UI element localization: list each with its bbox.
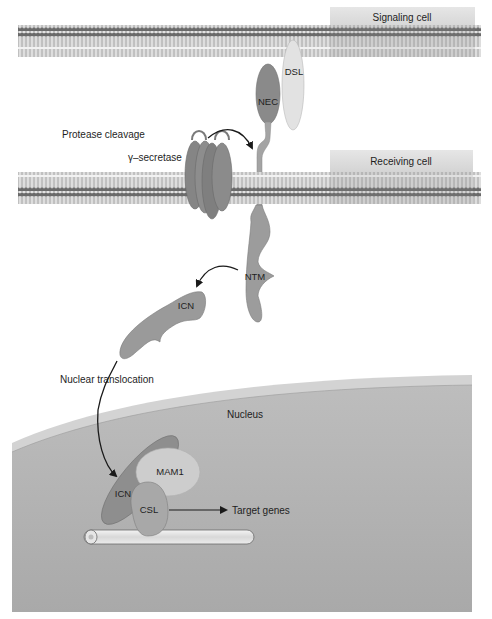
icn-cytoplasm-label: ICN xyxy=(178,300,195,311)
icn-nuclear-label: ICN xyxy=(115,488,132,499)
icn-cytoplasmic: ICN xyxy=(120,292,206,359)
dsl-label: DSL xyxy=(285,66,303,77)
protease-cleavage-label: Protease cleavage xyxy=(62,129,145,140)
dsl-ligand: DSL xyxy=(282,40,304,130)
dna-strand xyxy=(84,530,254,544)
signaling-cell-membrane: Signaling cell xyxy=(18,7,481,57)
receiving-cell-label: Receiving cell xyxy=(370,156,432,167)
ntm-fragment: NTM xyxy=(245,205,274,322)
csl-label: CSL xyxy=(140,504,158,515)
nucleus: Nucleus xyxy=(12,375,472,612)
target-genes-label: Target genes xyxy=(232,505,290,516)
notch-pathway-diagram: Signaling cell DSL NEC Receiving cell Pr… xyxy=(0,0,492,619)
ntm-label: NTM xyxy=(245,271,266,282)
gamma-secretase-complex xyxy=(185,131,232,219)
signaling-cell-label: Signaling cell xyxy=(373,12,432,23)
nucleus-label: Nucleus xyxy=(227,409,263,420)
receiving-cell-membrane: Receiving cell xyxy=(18,150,481,204)
mam1-label: MAM1 xyxy=(156,466,183,477)
release-arrow xyxy=(197,266,238,286)
nec-label: NEC xyxy=(258,96,278,107)
gamma-secretase-label: γ–secretase xyxy=(128,152,182,163)
